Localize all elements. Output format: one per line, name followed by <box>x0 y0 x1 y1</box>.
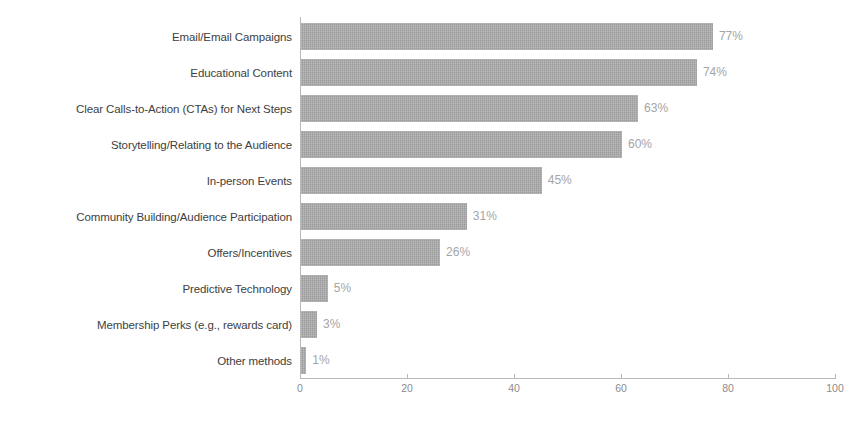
bar[interactable] <box>301 59 697 86</box>
bar-row: 26% <box>301 239 836 266</box>
bar-row: 31% <box>301 203 836 230</box>
x-axis-tick-mark <box>300 374 301 379</box>
bar-value-label: 74% <box>703 64 727 80</box>
bar-value-label: 3% <box>323 316 340 332</box>
bar[interactable] <box>301 347 306 374</box>
x-axis-tick-mark <box>835 374 836 379</box>
category-label: Offers/Incentives <box>0 247 292 259</box>
category-label: Clear Calls-to-Action (CTAs) for Next St… <box>0 103 292 115</box>
bar[interactable] <box>301 203 467 230</box>
x-axis-tick-mark <box>514 374 515 379</box>
bar[interactable] <box>301 311 317 338</box>
bar-value-label: 5% <box>334 280 351 296</box>
bar-row: 60% <box>301 131 836 158</box>
category-label: Email/Email Campaigns <box>0 31 292 43</box>
bar-row: 3% <box>301 311 836 338</box>
bar[interactable] <box>301 275 328 302</box>
x-axis-tick-label: 100 <box>826 382 844 394</box>
bar-row: 45% <box>301 167 836 194</box>
category-label: Membership Perks (e.g., rewards card) <box>0 319 292 331</box>
bar-value-label: 60% <box>628 136 652 152</box>
plot-area: 77%74%63%60%45%31%26%5%3%1% <box>300 17 836 379</box>
bar-row: 63% <box>301 95 836 122</box>
x-axis-tick-mark <box>728 374 729 379</box>
category-label-column: Email/Email CampaignsEducational Content… <box>0 17 292 377</box>
bar-value-label: 77% <box>719 28 743 44</box>
x-axis: 020406080100 <box>300 378 836 404</box>
bar-value-label: 26% <box>446 244 470 260</box>
bar-value-label: 31% <box>473 208 497 224</box>
bar-row: 1% <box>301 347 836 374</box>
x-axis-tick-label: 80 <box>722 382 734 394</box>
x-axis-tick-label: 60 <box>615 382 627 394</box>
bar-value-label: 63% <box>644 100 668 116</box>
bar-row: 77% <box>301 23 836 50</box>
bar[interactable] <box>301 23 713 50</box>
x-axis-tick-label: 0 <box>297 382 303 394</box>
category-label: Predictive Technology <box>0 283 292 295</box>
category-label: Educational Content <box>0 67 292 79</box>
bar[interactable] <box>301 239 440 266</box>
bar[interactable] <box>301 131 622 158</box>
x-axis-tick-label: 40 <box>508 382 520 394</box>
x-axis-tick-mark <box>621 374 622 379</box>
bar-row: 5% <box>301 275 836 302</box>
bar[interactable] <box>301 95 638 122</box>
category-label: In-person Events <box>0 175 292 187</box>
bar[interactable] <box>301 167 542 194</box>
category-label: Other methods <box>0 355 292 367</box>
bar-row: 74% <box>301 59 836 86</box>
x-axis-tick-label: 20 <box>401 382 413 394</box>
category-label: Storytelling/Relating to the Audience <box>0 139 292 151</box>
category-label: Community Building/Audience Participatio… <box>0 211 292 223</box>
x-axis-tick-mark <box>407 374 408 379</box>
bar-value-label: 1% <box>312 352 329 368</box>
bar-chart: Email/Email CampaignsEducational Content… <box>0 0 858 441</box>
bar-value-label: 45% <box>548 172 572 188</box>
